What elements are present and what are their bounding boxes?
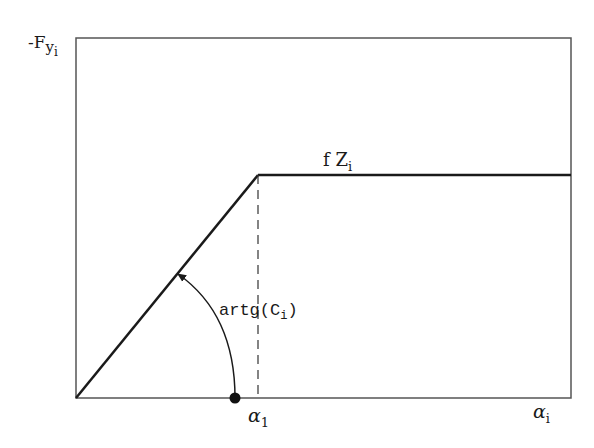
plot-frame bbox=[76, 38, 571, 398]
slope-angle-arc bbox=[178, 274, 235, 398]
arc-origin-dot bbox=[230, 393, 241, 404]
x-axis-label: αi bbox=[533, 400, 550, 426]
y-axis-label: -Fyi bbox=[28, 32, 58, 59]
slope-angle-label: artg(Ci) bbox=[219, 301, 298, 323]
plateau-label: f Zi bbox=[323, 149, 352, 174]
force-slip-diagram: -Fyi f Zi artg(Ci) α1 αi bbox=[0, 0, 594, 448]
breakpoint-label: α1 bbox=[248, 404, 269, 430]
linear-segment bbox=[76, 175, 258, 398]
